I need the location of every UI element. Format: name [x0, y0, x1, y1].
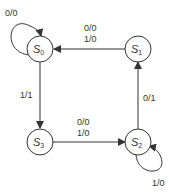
s3-to-s2-label-b: 1/0	[77, 128, 90, 138]
s3-to-s2-label-a: 0/0	[77, 117, 90, 127]
s0-to-s3-label: 1/1	[20, 90, 33, 100]
s2-to-s1-label: 0/1	[143, 93, 156, 103]
state-diagram: 0/0 0/0 1/0 1/1 0/0 1/0 0/1 1/0 S0 S1 S3…	[0, 0, 169, 193]
state-s2: S2	[125, 129, 151, 155]
s0-self-loop-label: 0/0	[5, 8, 18, 18]
state-s3: S3	[27, 129, 53, 155]
s1-to-s0-label-a: 0/0	[84, 23, 97, 33]
state-s1: S1	[125, 36, 151, 62]
state-s0: S0	[27, 36, 53, 62]
s2-self-loop-label: 1/0	[152, 178, 165, 188]
s1-to-s0-label-b: 1/0	[84, 34, 97, 44]
